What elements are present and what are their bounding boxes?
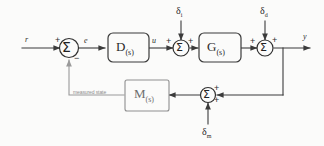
input-disturbance-label: δi <box>176 6 182 18</box>
measurement-junction-plus-right: + <box>214 84 219 93</box>
sensor-block-label: M(s) <box>134 87 154 104</box>
error-junction-plus-sign: + <box>55 36 60 45</box>
output-junction-plus-left: + <box>250 37 255 46</box>
signal-label-reference: r <box>25 36 28 44</box>
error-junction-minus-sign: − <box>74 54 79 63</box>
measured-state-annotation: measured state <box>73 90 106 95</box>
input-junction-plus-top: + <box>188 37 193 46</box>
output-disturbance-junction-sigma: Σ <box>260 42 267 53</box>
controller-block-label: D(s) <box>116 40 134 57</box>
measurement-noise-label: δm <box>202 127 211 139</box>
output-junction-plus-top: + <box>272 36 277 45</box>
measurement-junction-sigma: Σ <box>203 89 210 100</box>
error-junction-sigma: Σ <box>62 40 71 54</box>
signal-label-error: e <box>84 37 88 45</box>
block-diagram-canvas <box>0 0 324 146</box>
input-disturbance-junction-sigma: Σ <box>176 42 183 53</box>
measurement-junction-plus-bottom: + <box>214 96 219 105</box>
signal-label-control: u <box>152 37 156 45</box>
output-disturbance-label: δd <box>260 6 268 18</box>
signal-label-output: y <box>303 33 307 41</box>
plant-block-label: G(s) <box>207 40 225 57</box>
input-junction-plus-left: + <box>166 37 171 46</box>
